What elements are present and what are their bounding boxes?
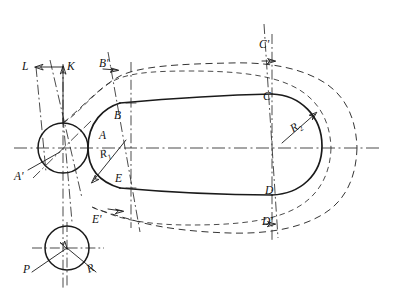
profile-bottom-edge [120,188,272,195]
label-D: D [265,185,273,197]
outer-envelope-upper [63,63,357,148]
dimension-L-extension [36,67,46,172]
label-E: E [115,173,122,185]
radius-R1-arrowhead [92,175,99,183]
label-D-prime: D' [262,216,273,228]
offset-arrow-E-prime-head [116,209,124,213]
label-B: B [114,110,121,122]
vector-P-line [32,248,67,272]
station-slant-CD-prime [264,24,278,238]
label-A: A [99,130,106,142]
inner-offset-curve-lower [92,148,331,225]
profile-right-arc-R2 [272,94,322,195]
label-C: C [263,91,271,103]
label-B-prime: B' [99,58,108,70]
technical-drawing-canvas: L K B' C' B C A A' E E' D D' P R R1 R2 [0,0,393,300]
leader-A-prime [28,152,60,170]
label-P: P [23,264,30,276]
label-L: L [22,61,28,73]
slant-centerline-left-down [50,60,82,198]
drawing-svg [0,0,393,300]
label-A-prime: A' [14,171,23,183]
profile-top-edge [120,94,272,103]
label-E-prime: E' [92,214,101,226]
label-K: K [67,61,75,73]
label-C-prime: C' [259,39,269,51]
